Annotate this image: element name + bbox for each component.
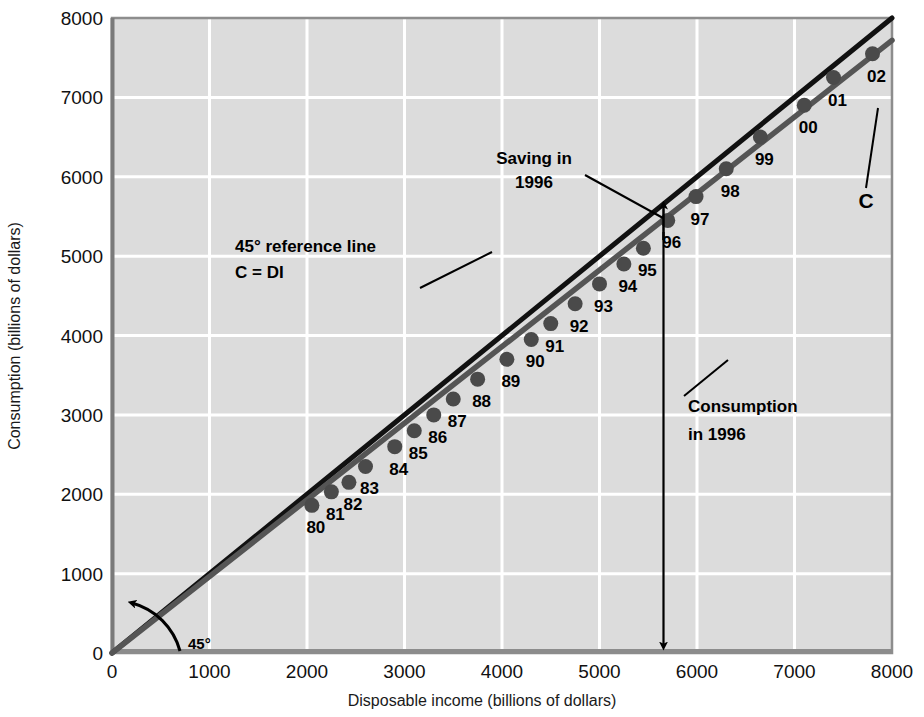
data-point-label: 02 xyxy=(867,67,886,86)
reference-line-label-line2: C = DI xyxy=(235,263,284,282)
data-point xyxy=(568,296,583,311)
data-point-label: 86 xyxy=(428,428,447,447)
x-tick-label: 6000 xyxy=(676,661,718,682)
data-point xyxy=(719,161,734,176)
data-point-label: 99 xyxy=(755,150,774,169)
consumption-1996-label-line1: Consumption xyxy=(688,397,798,416)
data-point xyxy=(470,372,485,387)
x-tick-label-group: 010002000300040005000600070008000 xyxy=(107,661,913,682)
data-point xyxy=(826,70,841,85)
x-tick-label: 7000 xyxy=(773,661,815,682)
y-tick-label: 4000 xyxy=(61,326,103,347)
data-point xyxy=(304,498,319,513)
data-point xyxy=(865,46,880,61)
y-tick-label: 5000 xyxy=(61,246,103,267)
y-axis-title: Consumption (billions of dollars) xyxy=(6,222,23,450)
x-tick-label: 3000 xyxy=(383,661,425,682)
x-tick-label: 8000 xyxy=(871,661,913,682)
consumption-1996-label-line2: in 1996 xyxy=(688,425,746,444)
data-point xyxy=(689,189,704,204)
x-tick-label: 2000 xyxy=(286,661,328,682)
data-point-label: 91 xyxy=(545,337,564,356)
chart-figure: 8081828384858687888990919293949596979899… xyxy=(0,0,924,717)
data-point xyxy=(592,276,607,291)
data-point xyxy=(387,439,402,454)
data-point-label: 81 xyxy=(326,505,345,524)
data-point xyxy=(426,407,441,422)
data-point-label: 80 xyxy=(306,518,325,537)
data-point xyxy=(407,423,422,438)
data-point-label: 97 xyxy=(691,210,710,229)
x-tick-label: 5000 xyxy=(578,661,620,682)
y-tick-label: 8000 xyxy=(61,8,103,29)
data-point-label: 89 xyxy=(501,372,520,391)
x-tick-label: 4000 xyxy=(481,661,523,682)
data-point-label: 98 xyxy=(721,182,740,201)
x-axis-title: Disposable income (billions of dollars) xyxy=(348,692,617,709)
data-point-label: 83 xyxy=(360,479,379,498)
data-point-label: 92 xyxy=(570,317,589,336)
y-tick-label: 6000 xyxy=(61,167,103,188)
y-tick-label: 3000 xyxy=(61,405,103,426)
consumption-function-chart: 8081828384858687888990919293949596979899… xyxy=(0,0,924,717)
data-point xyxy=(797,98,812,113)
y-tick-label-group: 010002000300040005000600070008000 xyxy=(61,8,103,664)
data-point xyxy=(446,392,461,407)
c-curve-label: C xyxy=(858,189,873,212)
data-point-label: 90 xyxy=(526,352,545,371)
y-tick-label: 7000 xyxy=(61,87,103,108)
x-tick-label: 0 xyxy=(107,661,118,682)
y-tick-label: 1000 xyxy=(61,564,103,585)
angle-45-label: 45° xyxy=(188,635,211,652)
data-point-label: 01 xyxy=(828,91,847,110)
y-tick-label: 2000 xyxy=(61,484,103,505)
data-point-label: 94 xyxy=(618,277,637,296)
data-point xyxy=(324,484,339,499)
data-point-label: 88 xyxy=(472,392,491,411)
data-point-label: 93 xyxy=(594,297,613,316)
data-point-label: 96 xyxy=(662,233,681,252)
reference-line-label-line1: 45° reference line xyxy=(235,237,376,256)
data-point xyxy=(636,241,651,256)
data-point-label: 95 xyxy=(638,261,657,280)
data-point xyxy=(543,316,558,331)
y-tick-label: 0 xyxy=(92,643,103,664)
data-point xyxy=(341,475,356,490)
data-point-label: 85 xyxy=(409,444,428,463)
saving-1996-label-line1: Saving in xyxy=(496,149,572,168)
data-point-label: 00 xyxy=(799,118,818,137)
data-point xyxy=(616,257,631,272)
data-point-label: 84 xyxy=(389,460,408,479)
data-point xyxy=(753,130,768,145)
data-point xyxy=(524,332,539,347)
data-point-label: 87 xyxy=(448,412,467,431)
x-tick-label: 1000 xyxy=(188,661,230,682)
saving-1996-label-line2: 1996 xyxy=(515,173,553,192)
data-point xyxy=(358,459,373,474)
data-point xyxy=(499,352,514,367)
